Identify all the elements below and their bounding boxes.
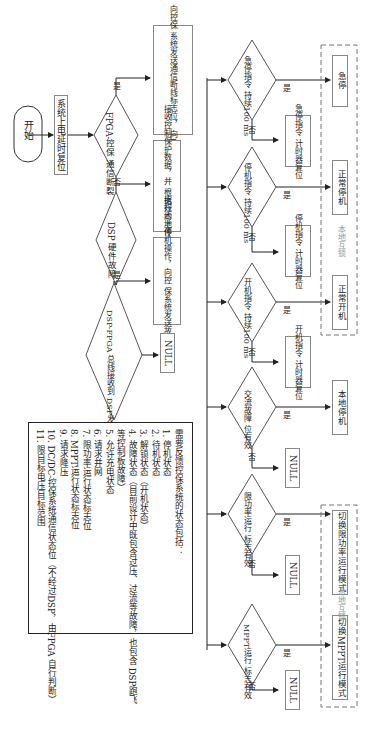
legend-title: 需要反馈控保系统的状态包括： bbox=[171, 429, 183, 629]
decision-label-line1: 急停指令 bbox=[242, 56, 251, 88]
decision-label-line1: FPGA-控保 bbox=[104, 112, 114, 157]
null-label: NULL bbox=[287, 562, 298, 588]
yes-label: 是 bbox=[280, 411, 291, 419]
action-line: 执行本地停机操作，向控 bbox=[163, 196, 172, 284]
no-label: 否 bbox=[245, 682, 256, 690]
action-line: 停机指令 bbox=[294, 214, 303, 246]
action-label: 正常开机 bbox=[335, 285, 346, 321]
legend-item: 1. 停机状态 bbox=[160, 429, 172, 629]
mppt-mode-box: 切换MPPT运行模式 bbox=[332, 615, 348, 700]
normal-start-box: 正常开机 bbox=[332, 275, 348, 330]
null-label: NULL bbox=[287, 455, 298, 481]
legend-item: 8. MPPT运行状态标志位 bbox=[68, 429, 80, 629]
normal-stop-box: 正常停机 bbox=[332, 160, 348, 215]
yes-label: 是 bbox=[280, 191, 291, 199]
yes-label: 是 bbox=[280, 518, 291, 526]
estop-timer-reset-box: 急停指令 计时器复位 bbox=[285, 115, 311, 167]
init-step-box: 系统上电延时复位 bbox=[54, 95, 68, 175]
legend-item: 10. DC/DC-控保系统通信状态位（不经过DSP，由FPGA 自行判断） bbox=[45, 429, 57, 629]
no-label: 否 bbox=[245, 560, 256, 568]
power-limit-mode-box: 切换限功率运行模式 bbox=[332, 510, 348, 595]
decision-label-line1: 开机指令 bbox=[242, 278, 251, 310]
fpga-break-action-box: 执行本地停机操作，向控保 系统发送通信断线标志位， 向DSP发送通信断线标志位 bbox=[153, 25, 193, 135]
legend-item: 9. 请求降压 bbox=[56, 429, 68, 629]
status-legend: 需要反馈控保系统的状态包括： 1. 停机状态 2. 待机状态 3. 解锁状态（开… bbox=[28, 422, 193, 634]
action-line: 计时器复位 bbox=[294, 138, 303, 178]
yes-label: 是 bbox=[280, 649, 291, 657]
null-label: NULL bbox=[287, 677, 298, 703]
legend-item: 4. 故障状态（目前设计中既包含过压、过流等故障，也包含 DSP跑飞 bbox=[125, 429, 137, 629]
decision-label-line1: 限功率运行 bbox=[242, 492, 251, 532]
interlock-label: 本地互锁 bbox=[335, 588, 346, 620]
null-box: NULL bbox=[285, 670, 300, 710]
action-line: 开机指令 bbox=[294, 325, 303, 357]
action-line: 执行本地停机操作，向控保 bbox=[169, 0, 178, 29]
decision-label-line1: 交流故障 bbox=[242, 390, 251, 422]
null-box: NULL bbox=[285, 448, 300, 488]
no-label: 否 bbox=[245, 453, 256, 461]
local-stop-box: 本地停机 bbox=[332, 380, 348, 435]
start-terminator: 开始 bbox=[22, 120, 33, 140]
yes-label: 是 bbox=[280, 306, 291, 314]
null-label: NULL bbox=[162, 340, 173, 366]
legend-item: 7. 限功率运行状态标志位 bbox=[79, 429, 91, 629]
action-line: 接收控制保护数据，并 bbox=[163, 105, 172, 185]
decision-label-line1: DSP bbox=[106, 222, 116, 240]
null-box: NULL bbox=[160, 333, 175, 373]
init-step-label: 系统上电延时复位 bbox=[56, 99, 67, 171]
legend-item: 6. 请求并网 bbox=[91, 429, 103, 629]
action-line: 计时器复位 bbox=[294, 359, 303, 399]
no-label: 否 bbox=[245, 126, 256, 134]
decision-power-limit: 限功率运行 标志有效 bbox=[241, 492, 252, 567]
decision-estop: 急停指令 持续100 ms bbox=[241, 56, 252, 136]
no-label: 否 bbox=[110, 178, 121, 186]
action-line: 急停指令 bbox=[294, 104, 303, 136]
legend-item: 11. 限目标电压目标范围 bbox=[33, 429, 45, 629]
action-label: 急停 bbox=[335, 72, 346, 90]
legend-item: 3. 解锁状态（开机状态） bbox=[137, 429, 149, 629]
decision-start: 开机指令 持续100 ms bbox=[241, 278, 252, 358]
stop-timer-reset-box: 停机指令 计时器复位 bbox=[285, 225, 311, 277]
decision-ac-fault: 交流故障 位有效 bbox=[241, 390, 252, 449]
action-label: 切换限功率运行模式 bbox=[335, 512, 346, 593]
action-label: 本地停机 bbox=[335, 390, 346, 426]
interlock-label: 本地互锁 bbox=[335, 225, 346, 257]
action-label: 正常停机 bbox=[335, 170, 346, 206]
no-label: 否 bbox=[245, 233, 256, 241]
decision-label-line1: MPPT运行 bbox=[242, 624, 251, 664]
no-label: 否 bbox=[245, 348, 256, 356]
estop-box: 急停 bbox=[332, 55, 348, 107]
yes-label: 是 bbox=[110, 82, 121, 90]
legend-item: 等控制板故障） bbox=[114, 429, 126, 629]
decision-label-line2: 位有效 bbox=[242, 425, 251, 449]
legend-item: 2. 待机状态 bbox=[148, 429, 160, 629]
start-timer-reset-box: 开机指令 计时器复位 bbox=[285, 336, 311, 388]
legend-item: 5. 允许充电状态 bbox=[102, 429, 114, 629]
yes-label: 是 bbox=[110, 271, 121, 279]
decision-label-line1: 停机指令 bbox=[242, 163, 251, 195]
null-box: NULL bbox=[285, 555, 300, 595]
bus-fault-action-box: 执行本地停机操作，向控 保系统发送故障标志位 bbox=[153, 237, 181, 325]
decision-stop: 停机指令 持续100 ms bbox=[241, 163, 252, 243]
action-line: 计时器复位 bbox=[294, 248, 303, 288]
yes-label: 是 bbox=[280, 84, 291, 92]
decision-label-line1: DSP-FPGA 总线接收到 bbox=[105, 310, 114, 395]
action-label: 切换MPPT运行模式 bbox=[335, 618, 346, 698]
